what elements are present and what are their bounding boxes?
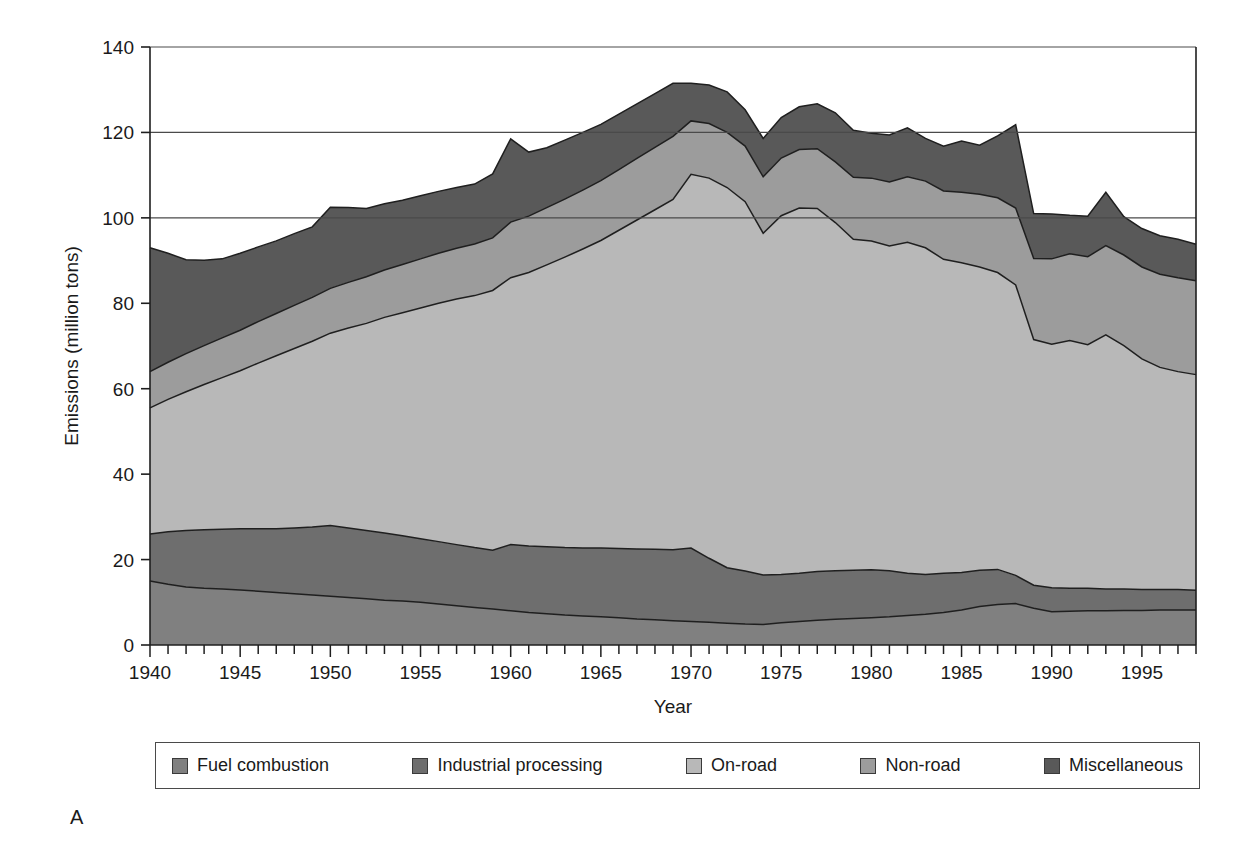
legend-swatch-icon <box>172 758 188 774</box>
x-tick-label: 1985 <box>940 662 982 683</box>
legend-item: Non-road <box>860 755 960 776</box>
legend-swatch-icon <box>686 758 702 774</box>
x-axis-title: Year <box>654 696 693 717</box>
x-tick-label: 1980 <box>850 662 892 683</box>
x-tick-label: 1990 <box>1031 662 1073 683</box>
x-tick-label: 1940 <box>129 662 171 683</box>
x-tick-label: 1975 <box>760 662 802 683</box>
legend-item: On-road <box>686 755 777 776</box>
panel-letter: A <box>70 806 83 829</box>
chart-legend: Fuel combustionIndustrial processingOn-r… <box>155 742 1200 789</box>
y-axis-title: Emissions (million tons) <box>61 246 82 446</box>
legend-label: Fuel combustion <box>197 755 329 776</box>
y-tick-label: 60 <box>113 379 134 400</box>
legend-item: Miscellaneous <box>1044 755 1183 776</box>
legend-swatch-icon <box>1044 758 1060 774</box>
x-tick-label: 1955 <box>399 662 441 683</box>
stacked-area-chart: 0204060801001201401940194519501955196019… <box>0 0 1260 740</box>
x-tick-label: 1950 <box>309 662 351 683</box>
legend-label: Industrial processing <box>437 755 602 776</box>
y-tick-label: 0 <box>123 635 134 656</box>
x-tick-label: 1995 <box>1121 662 1163 683</box>
x-tick-label: 1945 <box>219 662 261 683</box>
x-ticks: 1940194519501955196019651970197519801985… <box>129 645 1196 683</box>
y-tick-label: 120 <box>102 122 134 143</box>
x-tick-label: 1970 <box>670 662 712 683</box>
x-tick-label: 1965 <box>580 662 622 683</box>
legend-label: Non-road <box>885 755 960 776</box>
x-tick-label: 1960 <box>490 662 532 683</box>
legend-label: On-road <box>711 755 777 776</box>
legend-item: Industrial processing <box>412 755 602 776</box>
y-tick-label: 40 <box>113 464 134 485</box>
legend-swatch-icon <box>860 758 876 774</box>
y-ticks: 020406080100120140 <box>102 37 150 656</box>
y-tick-label: 140 <box>102 37 134 58</box>
legend-swatch-icon <box>412 758 428 774</box>
legend-label: Miscellaneous <box>1069 755 1183 776</box>
legend-item: Fuel combustion <box>172 755 329 776</box>
y-tick-label: 20 <box>113 550 134 571</box>
y-tick-label: 80 <box>113 293 134 314</box>
figure-panel: 0204060801001201401940194519501955196019… <box>0 0 1260 849</box>
y-tick-label: 100 <box>102 208 134 229</box>
